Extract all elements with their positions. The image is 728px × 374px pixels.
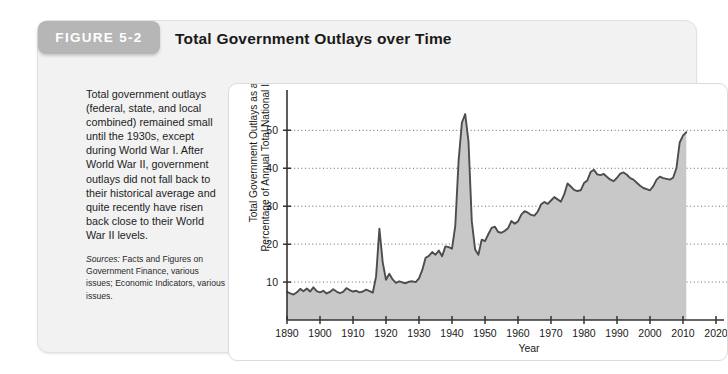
x-tick-label: 2000 bbox=[638, 327, 662, 339]
y-tick-label: 30 bbox=[266, 200, 278, 212]
y-tick-label: 10 bbox=[266, 276, 278, 288]
figure-card: Total government outlays (federal, state… bbox=[37, 20, 697, 353]
outlays-area-chart: 1020304050 18901900191019201930194019501… bbox=[229, 84, 728, 361]
sources-label: Sources: bbox=[86, 254, 120, 264]
x-tick-label: 1960 bbox=[506, 327, 530, 339]
chart-panel: Total Government Outlays as a Percentage… bbox=[228, 83, 728, 361]
y-tick-label: 40 bbox=[266, 162, 278, 174]
y-tick-label: 20 bbox=[266, 238, 278, 250]
x-tick-label: 1930 bbox=[407, 327, 431, 339]
caption-column: Total government outlays (federal, state… bbox=[86, 87, 226, 302]
x-tick-label: 1980 bbox=[572, 327, 596, 339]
x-tick-label: 1950 bbox=[473, 327, 497, 339]
x-axis-title: Year bbox=[518, 342, 540, 354]
x-tick-label: 2020 bbox=[704, 327, 728, 339]
y-tick-label: 50 bbox=[266, 124, 278, 136]
x-tick-label: 1910 bbox=[341, 327, 365, 339]
x-tick-label: 1890 bbox=[275, 327, 299, 339]
figure-number-label: FIGURE 5-2 bbox=[55, 30, 142, 45]
figure-caption-text: Total government outlays (federal, state… bbox=[86, 87, 226, 242]
x-tick-label: 1990 bbox=[605, 327, 629, 339]
x-tick-label: 1900 bbox=[308, 327, 332, 339]
x-tick-label: 1920 bbox=[374, 327, 398, 339]
x-tick-label: 1970 bbox=[539, 327, 563, 339]
figure-title: Total Government Outlays over Time bbox=[175, 30, 452, 48]
x-tick-label: 2010 bbox=[671, 327, 695, 339]
x-tick-label: 1940 bbox=[440, 327, 464, 339]
figure-number-tab: FIGURE 5-2 bbox=[38, 21, 160, 54]
figure-sources: Sources: Facts and Figures on Government… bbox=[86, 253, 226, 302]
